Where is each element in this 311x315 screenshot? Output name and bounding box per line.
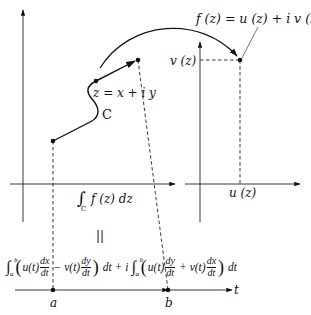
curve-label: C [102, 108, 112, 121]
start-point [51, 139, 56, 144]
mapping-arrow [100, 28, 237, 68]
image-point [238, 58, 243, 63]
contour-curve [53, 61, 135, 141]
label-pointer [242, 27, 258, 58]
end-point [136, 58, 141, 63]
integral-body: f (z) dz [91, 193, 133, 205]
b-point [166, 288, 171, 293]
a-label: a [50, 297, 57, 309]
mapping-label: f (z) = u (z) + i v (z) [196, 13, 311, 26]
v-axis-label: v (z) [170, 55, 196, 67]
b-label: b [165, 297, 173, 309]
t-axis-label: t [234, 284, 239, 296]
z-point [94, 79, 99, 84]
parametrized-integral: ∫ba ( u(t) dxdt − v(t) dydt ) dt + i ∫ba… [6, 256, 237, 278]
integral-subscript: C [81, 206, 86, 213]
z-label: z = x + i y [93, 87, 156, 99]
equals-sign: || [96, 230, 104, 242]
u-axis-label: u (z) [229, 187, 256, 199]
a-point [51, 288, 56, 293]
